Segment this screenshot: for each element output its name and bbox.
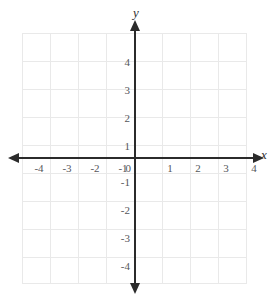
y-tick-label: -3 — [121, 232, 131, 244]
origin-label: 0 — [126, 162, 132, 174]
y-tick-label: -2 — [121, 204, 130, 216]
y-tick-label: 3 — [125, 84, 131, 96]
coordinate-plane: -4 -3 -2 -1 1 2 3 4 4 3 2 1 -1 -2 -3 -4 … — [0, 0, 274, 295]
y-tick-label: 2 — [125, 112, 131, 124]
y-tick-label: -1 — [121, 176, 130, 188]
x-tick-label: 4 — [251, 162, 257, 174]
y-tick-label: 4 — [125, 56, 131, 68]
x-tick-label: -4 — [34, 162, 44, 174]
x-axis-name: x — [260, 147, 267, 162]
y-axis-arrow-down-icon — [130, 283, 140, 294]
y-axis-name: y — [131, 5, 139, 20]
x-axis-arrow-left-icon — [8, 153, 19, 163]
y-axis-arrow-up-icon — [130, 20, 140, 31]
x-tick-label: 2 — [195, 162, 201, 174]
x-tick-label: 1 — [167, 162, 173, 174]
x-axis-tick-labels: -4 -3 -2 -1 1 2 3 4 — [34, 162, 257, 174]
y-tick-label: 1 — [125, 140, 131, 152]
x-tick-label: -3 — [62, 162, 72, 174]
coordinate-plane-svg: -4 -3 -2 -1 1 2 3 4 4 3 2 1 -1 -2 -3 -4 … — [0, 0, 274, 295]
y-tick-label: -4 — [121, 260, 131, 272]
x-tick-label: -2 — [90, 162, 99, 174]
x-tick-label: 3 — [223, 162, 229, 174]
